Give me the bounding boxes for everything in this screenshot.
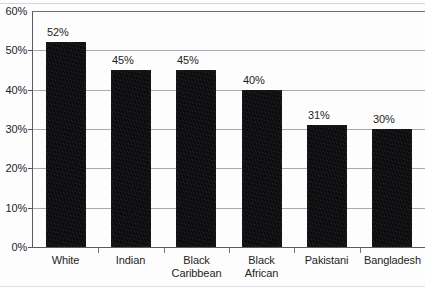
x-tick-mark xyxy=(360,248,361,253)
x-axis-category-line: Black xyxy=(229,254,294,267)
bar-value-label: 45% xyxy=(177,54,199,66)
y-tick-label: 20% xyxy=(6,162,27,174)
bar-value-label: 30% xyxy=(373,113,395,125)
x-tick-mark xyxy=(164,248,165,253)
bar-value-label: 45% xyxy=(112,54,134,66)
y-tick-label: 40% xyxy=(6,84,27,96)
bar[interactable] xyxy=(46,42,86,247)
x-axis-category-label: BlackCaribbean xyxy=(164,254,229,280)
x-axis-category-line: Black xyxy=(164,254,229,267)
x-axis-category-label: Bangladesh xyxy=(360,254,425,267)
y-tick-label: 30% xyxy=(6,123,27,135)
x-tick-mark xyxy=(294,248,295,253)
x-axis-category-label: White xyxy=(33,254,98,267)
bar[interactable] xyxy=(307,125,347,247)
x-axis-category-line: Pakistani xyxy=(294,254,359,267)
bars xyxy=(33,11,425,247)
plot-area xyxy=(33,11,425,247)
bar-value-label: 31% xyxy=(308,109,330,121)
bar[interactable] xyxy=(176,70,216,247)
bar[interactable] xyxy=(111,70,151,247)
bar-value-label: 40% xyxy=(243,74,265,86)
x-tick-mark xyxy=(98,248,99,253)
bar-chart: 0%10%20%30%40%50%60% WhiteIndianBlackCar… xyxy=(0,0,425,288)
y-axis: 0%10%20%30%40%50%60% xyxy=(0,0,31,288)
x-tick-mark xyxy=(229,248,230,253)
x-axis-category-line: Bangladesh xyxy=(360,254,425,267)
x-axis-labels: WhiteIndianBlackCaribbeanBlackAfricanPak… xyxy=(33,254,425,288)
y-tick-label: 0% xyxy=(12,241,28,253)
bar[interactable] xyxy=(242,90,282,247)
x-axis-category-line: Caribbean xyxy=(164,267,229,280)
bar[interactable] xyxy=(372,129,412,247)
x-axis-category-label: Pakistani xyxy=(294,254,359,267)
y-tick-label: 60% xyxy=(6,5,27,17)
x-axis-category-line: Indian xyxy=(98,254,163,267)
bar-value-label: 52% xyxy=(47,26,69,38)
x-axis-category-line: African xyxy=(229,267,294,280)
x-axis-category-line: White xyxy=(33,254,98,267)
y-tick-label: 10% xyxy=(6,202,27,214)
x-axis-category-label: BlackAfrican xyxy=(229,254,294,280)
y-tick-label: 50% xyxy=(6,44,27,56)
x-axis-category-label: Indian xyxy=(98,254,163,267)
scan-artifact xyxy=(0,3,425,4)
